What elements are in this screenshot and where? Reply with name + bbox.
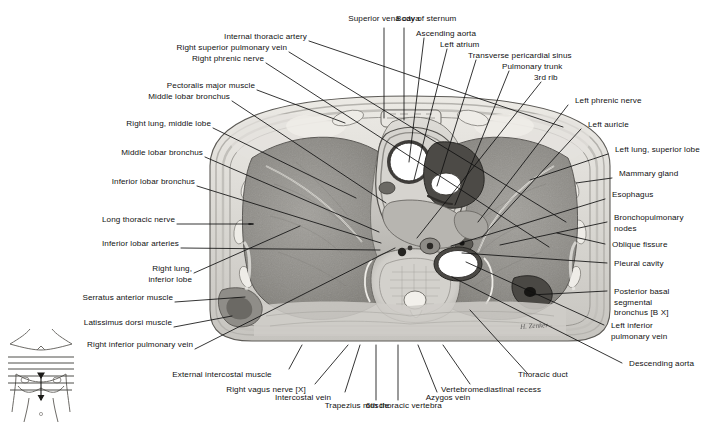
label-right-lung-middle-lobe: Right lung, middle lobe xyxy=(33,119,211,129)
label-inferior-lobar-bronchus: Inferior lobar bronchus xyxy=(17,177,195,187)
label-right-phrenic-nerve: Right phrenic nerve xyxy=(86,54,264,64)
label-latissimus-dorsi-muscle: Latissimus dorsi muscle xyxy=(0,318,172,328)
label-descending-aorta: Descending aorta xyxy=(629,359,694,369)
label-left-phrenic-nerve: Left phrenic nerve xyxy=(575,96,642,106)
label-mammary-gland: Mammary gland xyxy=(619,169,678,179)
label-left-lung-superior-lobe: Left lung, superior lobe xyxy=(615,145,700,155)
label-3rd-rib: 3rd rib xyxy=(534,73,558,83)
label-thoracic-duct: Thoracic duct xyxy=(492,370,594,380)
label-esophagus: Esophagus xyxy=(612,190,653,200)
label-pleural-cavity: Pleural cavity xyxy=(614,259,664,269)
label-middle-lobar-bronchus: Middle lobar bronchus xyxy=(25,148,203,158)
label-posterior-basal-segmental-bronchus: Posterior basal segmental bronchus [B X] xyxy=(614,287,670,319)
label-right-superior-pulmonary-vein: Right superior pulmonary vein xyxy=(109,43,287,53)
label-middle-lobar-bronchus-upper: Middle lobar bronchus xyxy=(52,92,230,102)
label-pectoralis-major-muscle: Pectoralis major muscle xyxy=(77,81,255,91)
label-left-auricle: Left auricle xyxy=(588,120,629,130)
label-pulmonary-trunk: Pulmonary trunk xyxy=(502,62,562,72)
label-right-inferior-pulmonary-vein: Right inferior pulmonary vein xyxy=(15,340,193,350)
label-vertebromediastinal-recess: Vertebromediastinal recess xyxy=(415,385,567,395)
figure-canvas: H. Zenker xyxy=(0,0,726,427)
label-external-intercostal-muscle: External intercostal muscle xyxy=(152,370,292,380)
label-transverse-pericardial-sinus: Transverse pericardial sinus xyxy=(468,51,572,61)
label-body-of-sternum: Body of sternum xyxy=(396,14,456,24)
label-internal-thoracic-artery: Internal thoracic artery xyxy=(129,32,307,42)
label-serratus-anterior-muscle: Serratus anterior muscle xyxy=(0,293,173,303)
label-inferior-lobar-arteries: Inferior lobar arteries xyxy=(1,239,179,249)
label-long-thoracic-nerve: Long thoracic nerve xyxy=(0,215,175,225)
label-left-atrium: Left atrium xyxy=(440,40,479,50)
label-oblique-fissure: Oblique fissure xyxy=(612,240,668,250)
label-left-inferior-pulmonary-vein: Left inferior pulmonary vein xyxy=(611,321,667,342)
label-bronchopulmonary-nodes: Bronchopulmonary nodes xyxy=(614,213,684,234)
label-ascending-aorta: Ascending aorta xyxy=(416,29,476,39)
label-right-lung-inferior-lobe: Right lung, inferior lobe xyxy=(14,264,192,285)
